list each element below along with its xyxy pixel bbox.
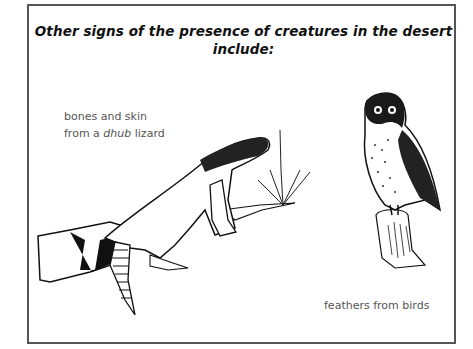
owl-illustration-icon	[0, 0, 473, 349]
